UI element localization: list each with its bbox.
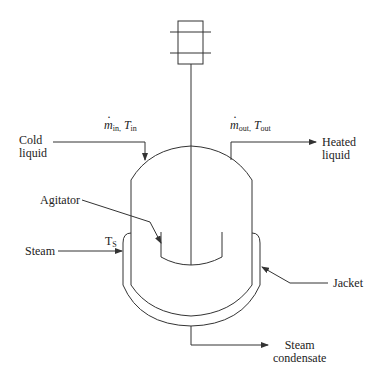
inlet-temp-var: T: [124, 118, 131, 132]
outlet-symbol: mout, Tout: [230, 118, 271, 133]
steam-temp-sub: S: [112, 240, 116, 249]
steam-temp-label: TS: [105, 234, 117, 249]
cold-liquid-line2: liquid: [19, 147, 47, 160]
inlet-temp-sub: in: [131, 124, 137, 133]
diagram-canvas: Cold liquid min, Tin mout, Tout Heated l…: [0, 0, 378, 378]
steam-label: Steam: [25, 245, 55, 258]
inlet-flow-sub: in,: [113, 124, 121, 133]
jacket-pointer: [262, 267, 328, 283]
inlet-flow-var: m: [104, 118, 113, 133]
heated-liquid-line2: liquid: [322, 149, 356, 162]
condensate-label: Steam condensate: [273, 339, 326, 365]
agitator-label: Agitator: [40, 194, 80, 207]
tank-diagram-svg: [0, 0, 378, 378]
outlet-flow-var: m: [230, 118, 239, 133]
outlet-temp-var: T: [254, 118, 261, 132]
inlet-arrow: [53, 142, 145, 160]
motor-box: [178, 21, 203, 64]
cold-liquid-label: Cold liquid: [19, 134, 47, 160]
outlet-temp-sub: out: [261, 124, 271, 133]
vessel-bottom: [131, 285, 252, 316]
jacket-label: Jacket: [333, 277, 363, 290]
heated-liquid-label: Heated liquid: [322, 136, 356, 162]
inlet-symbol: min, Tin: [104, 118, 137, 133]
agitator-pointer: [82, 200, 161, 243]
condensate-arrow: [191, 326, 268, 345]
outlet-flow-sub: out,: [239, 124, 251, 133]
condensate-line2: condensate: [273, 352, 326, 365]
outlet-arrow: [231, 142, 316, 160]
